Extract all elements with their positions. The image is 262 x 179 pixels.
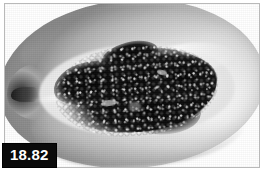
flesh-fleck	[129, 102, 141, 111]
figure-number-label: 18.82	[2, 143, 57, 168]
figure-plate: 18.82	[0, 0, 262, 179]
